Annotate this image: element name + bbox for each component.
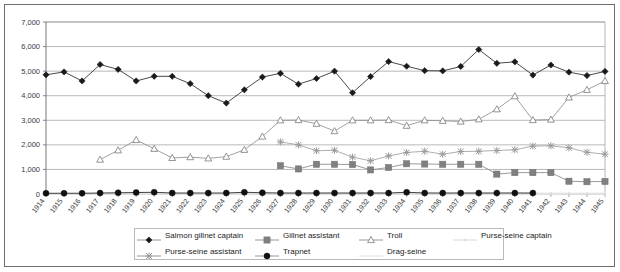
y-axis-tick-label: 5,000 [21, 67, 40, 76]
y-axis-tick-label: 3,000 [21, 116, 40, 125]
legend-item-trapnet[interactable]: Trapnet [254, 244, 358, 260]
y-axis-tick-label: 1,000 [21, 165, 40, 174]
x-axis-tick-label: 1937 [444, 197, 461, 215]
legend-label: Trapnet [283, 247, 310, 257]
x-axis-tick-label: 1925 [228, 197, 245, 215]
x-axis-tick-label: 1933 [372, 197, 389, 215]
legend-label: Purse-seine captain [481, 231, 552, 241]
y-axis-tick-label: 2,000 [21, 140, 40, 149]
x-axis-tick-label: 1943 [553, 197, 570, 215]
y-axis-tick-label: 4,000 [21, 91, 40, 100]
legend: Salmon gillnet captain Gillnet assistant… [134, 228, 504, 260]
x-axis-tick-label: 1930 [318, 197, 335, 215]
x-axis-tick-label: 1934 [390, 197, 407, 215]
x-axis-tick-label: 1939 [480, 197, 497, 215]
x-axis-tick-label: 1924 [210, 197, 227, 215]
x-axis-tick-label: 1927 [264, 197, 281, 215]
x-axis-tick-label: 1919 [120, 197, 137, 215]
legend-marker-dot-icon [452, 231, 478, 241]
legend-marker-line-icon [358, 247, 384, 257]
x-axis-tick-label: 1932 [354, 197, 371, 215]
legend-label: Purse-seine assistant [165, 247, 241, 257]
y-axis-tick-label: 7,000 [21, 18, 40, 27]
legend-label: Gillnet assistant [283, 231, 339, 241]
legend-item-salmon-gillnet-captain[interactable]: Salmon gillnet captain [136, 228, 254, 244]
legend-item-troll[interactable]: Troll [358, 228, 452, 244]
chart-screenshot: 01,0002,0003,0004,0005,0006,0007,0001914… [0, 0, 620, 272]
legend-item-drag-seine[interactable]: Drag-seine [358, 244, 452, 260]
x-axis-tick-label: 1921 [156, 197, 173, 215]
x-axis-tick-label: 1916 [66, 197, 83, 215]
legend-item-purse-seine-assistant[interactable]: Purse-seine assistant [136, 244, 254, 260]
x-axis-tick-label: 1928 [282, 197, 299, 215]
legend-label: Salmon gillnet captain [165, 231, 243, 241]
y-axis-tick-label: 6,000 [21, 42, 40, 51]
x-axis-tick-label: 1915 [48, 197, 65, 215]
x-axis-tick-label: 1931 [336, 197, 353, 215]
x-axis-tick-label: 1935 [408, 197, 425, 215]
x-axis-tick-label: 1922 [174, 197, 191, 215]
x-axis-tick-label: 1923 [192, 197, 209, 215]
x-axis-tick-label: 1938 [462, 197, 479, 215]
x-axis-tick-label: 1920 [138, 197, 155, 215]
legend-item-purse-seine-captain[interactable]: Purse-seine captain [452, 228, 552, 244]
legend-marker-circle-icon [254, 247, 280, 257]
legend-marker-triangle-icon [358, 231, 384, 241]
x-axis-tick-label: 1941 [517, 197, 534, 215]
x-axis-tick-label: 1940 [498, 197, 515, 215]
x-axis-tick-label: 1945 [589, 197, 606, 215]
legend-marker-diamond-icon [136, 231, 162, 241]
x-axis-tick-label: 1917 [84, 197, 101, 215]
legend-label: Drag-seine [387, 247, 426, 257]
legend-marker-cross-icon [136, 247, 162, 257]
x-axis-tick-label: 1942 [535, 197, 552, 215]
x-axis-tick-label: 1926 [246, 197, 263, 215]
x-axis-tick-label: 1914 [30, 197, 47, 215]
x-axis-tick-label: 1918 [102, 197, 119, 215]
x-axis-tick-label: 1929 [300, 197, 317, 215]
legend-item-gillnet-assistant[interactable]: Gillnet assistant [254, 228, 358, 244]
legend-marker-square-icon [254, 231, 280, 241]
x-axis-tick-label: 1936 [426, 197, 443, 215]
x-axis-tick-label: 1944 [571, 197, 588, 215]
legend-label: Troll [387, 231, 402, 241]
